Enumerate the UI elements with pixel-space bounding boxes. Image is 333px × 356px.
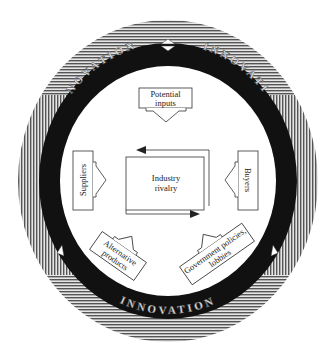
- innovation-diagram: NOVATION INNOVATI INNOVATION Potential i…: [0, 0, 333, 356]
- industry-rivalry-box: Industry rivalry: [126, 146, 209, 218]
- svg-text:Buyers: Buyers: [243, 168, 253, 192]
- svg-text:Industry: Industry: [152, 173, 181, 183]
- svg-text:inputs: inputs: [155, 98, 176, 108]
- svg-text:rivalry: rivalry: [155, 183, 178, 193]
- svg-text:Suppliers: Suppliers: [78, 164, 88, 196]
